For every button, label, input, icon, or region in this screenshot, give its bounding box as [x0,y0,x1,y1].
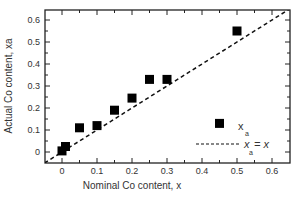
y-axis-label: Actual Co content, xa [3,38,14,133]
x-tick-label: 0.2 [126,166,139,176]
x-tick-label: 0 [59,166,64,176]
data-point [215,119,224,128]
data-point [110,106,119,115]
data-point [145,75,154,84]
scatter-chart: 00.10.20.30.40.50.600.10.20.30.40.50.6xa… [0,0,305,197]
data-point [163,75,172,84]
x-tick-label: 0.6 [266,166,279,176]
y-tick-label: 0.1 [27,125,40,135]
data-point [93,121,102,130]
data-point [75,123,84,132]
identity-line [45,9,290,163]
data-point [61,142,70,151]
y-tick-label: 0.5 [27,37,40,47]
x-tick-label: 0.4 [196,166,209,176]
x-tick-label: 0.5 [231,166,244,176]
y-tick-label: 0.3 [27,81,40,91]
legend-marker-label: x [238,120,244,132]
y-tick-label: 0.6 [27,15,40,25]
data-point [128,94,137,103]
y-tick-label: 0 [35,147,40,157]
data-point [233,27,242,36]
y-tick-label: 0.2 [27,103,40,113]
x-axis-label: Nominal Co content, x [83,180,181,191]
y-tick-label: 0.4 [27,59,40,69]
x-tick-label: 0.1 [91,166,104,176]
legend-line-sub: a [249,149,253,156]
x-tick-label: 0.3 [161,166,174,176]
legend-marker-sub: a [245,130,249,137]
legend-line-eq: = x [254,138,269,150]
plot-area: 00.10.20.30.40.50.600.10.20.30.40.50.6xa… [27,9,290,176]
